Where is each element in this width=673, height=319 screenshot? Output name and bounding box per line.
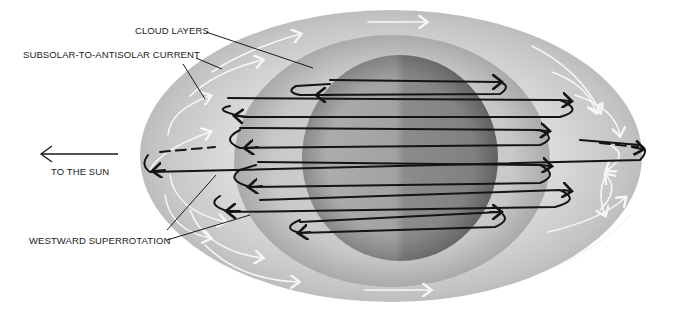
cloud-layers-label: CLOUD LAYERS bbox=[135, 25, 209, 36]
westward-superrotation-label: WESTWARD SUPERROTATION bbox=[29, 235, 170, 246]
to-the-sun-label: TO THE SUN bbox=[51, 166, 109, 177]
sun-direction-arrow-icon bbox=[41, 146, 118, 162]
circulation-diagram bbox=[0, 0, 673, 319]
subsolar-current-label: SUBSOLAR-TO-ANTISOLAR CURRENT bbox=[23, 49, 200, 60]
